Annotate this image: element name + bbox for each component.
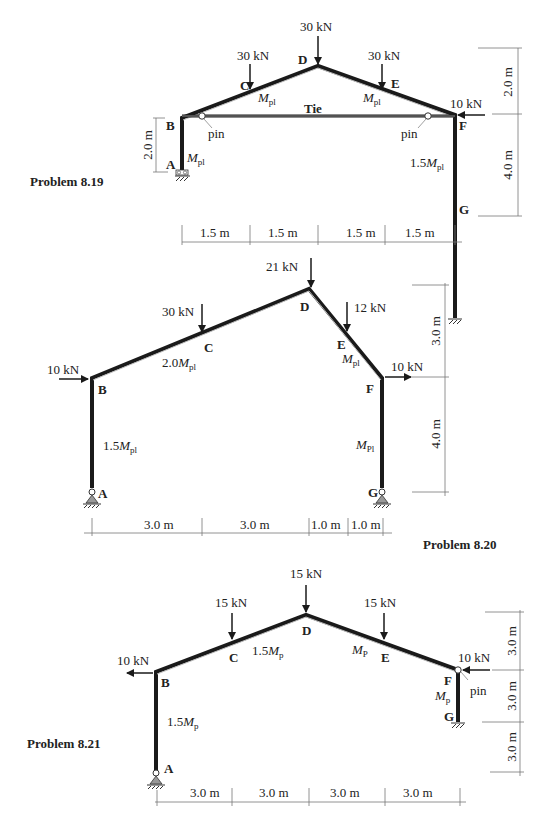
problem-8-19-title: Problem 8.19 — [30, 174, 104, 189]
svg-text:3.0 m: 3.0 m — [504, 626, 519, 656]
svg-text:3.0 m: 3.0 m — [259, 785, 289, 800]
load-label-f: 10 kN — [450, 96, 483, 111]
pin-label-right: pin — [401, 126, 418, 141]
svg-text:4.0 m: 4.0 m — [428, 419, 443, 449]
horizontal-dimensions-8-21: 3.0 m 3.0 m 3.0 m 3.0 m — [155, 785, 466, 806]
problem-8-20-diagram: Problem 8.20 21 kN 30 kN — [47, 258, 496, 552]
node-d: D — [302, 623, 311, 638]
svg-text:3.0 m: 3.0 m — [240, 517, 270, 532]
pin-support-a-icon — [147, 770, 165, 789]
svg-text:3.0 m: 3.0 m — [144, 517, 174, 532]
svg-text:3.0 m: 3.0 m — [403, 785, 433, 800]
svg-text:3.0 m: 3.0 m — [504, 732, 519, 762]
member-label-df: MP — [351, 642, 368, 659]
node-f: F — [366, 381, 374, 396]
member-label-bd: 1.5Mp — [252, 643, 284, 660]
pin-label-f: pin — [470, 683, 487, 698]
load-label-b: 10 kN — [117, 653, 150, 668]
member-label-fg: 1.5Mpl — [410, 155, 445, 172]
vertical-dimensions-8-21: 3.0 m 3.0 m 3.0 m — [482, 610, 524, 776]
svg-text:1.0 m: 1.0 m — [351, 517, 381, 532]
node-e: E — [391, 76, 400, 91]
member-label-df: Mpl — [362, 90, 381, 107]
member-label-df: Mpl — [341, 351, 360, 368]
svg-text:1.0 m: 1.0 m — [311, 517, 341, 532]
svg-text:3.0 m: 3.0 m — [504, 681, 519, 711]
vertical-dimensions-8-19: 2.0 m 4.0 m — [478, 48, 522, 216]
node-f: F — [444, 673, 452, 688]
load-label-b: 10 kN — [47, 362, 80, 377]
vertical-dimensions-8-20: 3.0 m 4.0 m — [412, 283, 449, 496]
load-label-f: 10 kN — [391, 359, 424, 374]
member-label-ab: 1.5Mpl — [103, 438, 138, 455]
roller-support-icon — [175, 170, 190, 181]
node-e: E — [337, 337, 346, 352]
svg-text:3.0 m: 3.0 m — [190, 785, 220, 800]
node-b: B — [161, 675, 170, 690]
node-a: A — [164, 761, 174, 776]
horizontal-dimensions-8-20: 3.0 m 3.0 m 1.0 m 1.0 m — [84, 517, 392, 536]
frame-8-21 — [156, 615, 468, 770]
load-label-e: 12 kN — [354, 300, 387, 315]
pin-label-left: pin — [208, 126, 225, 141]
svg-text:1.5 m: 1.5 m — [268, 225, 298, 240]
svg-text:2.0 m: 2.0 m — [500, 67, 515, 97]
node-b: B — [166, 118, 175, 133]
node-a: A — [166, 157, 176, 172]
member-label-bd: 2.0Mpl — [162, 355, 197, 372]
svg-text:4.0 m: 4.0 m — [500, 150, 515, 180]
load-label-c: 15 kN — [215, 595, 248, 610]
node-a: A — [98, 486, 108, 501]
svg-text:3.0 m: 3.0 m — [330, 785, 360, 800]
load-label-d: 15 kN — [290, 566, 323, 581]
pin-left-icon — [199, 113, 205, 119]
member-label-fg: Mp — [434, 688, 451, 705]
load-label-d: 30 kN — [300, 19, 333, 34]
node-g: G — [444, 709, 454, 724]
svg-text:3.0 m: 3.0 m — [428, 316, 443, 346]
problem-8-21-title: Problem 8.21 — [27, 736, 100, 751]
svg-text:1.5 m: 1.5 m — [346, 225, 376, 240]
load-label-d: 21 kN — [266, 259, 299, 274]
load-label-e: 30 kN — [368, 48, 401, 63]
node-d: D — [298, 52, 307, 67]
horizontal-dimensions-8-19: 1.5 m 1.5 m 1.5 m 1.5 m — [182, 225, 462, 245]
node-g: G — [459, 202, 469, 217]
member-label-ab: Mpl — [186, 150, 205, 167]
tie-label: Tie — [304, 101, 322, 116]
node-b: B — [98, 382, 107, 397]
vertical-dimension-left-8-19: 2.0 m — [140, 118, 168, 172]
node-c: C — [204, 340, 213, 355]
node-c: C — [240, 78, 249, 93]
member-label-fg: MPl — [355, 437, 375, 454]
problem-8-19-diagram: Problem 8.19 — [30, 19, 522, 324]
load-label-c: 30 kN — [237, 48, 270, 63]
node-d: D — [300, 299, 309, 314]
problem-8-20-title: Problem 8.20 — [423, 537, 496, 552]
node-c: C — [229, 650, 238, 665]
node-e: E — [381, 650, 390, 665]
svg-text:1.5 m: 1.5 m — [200, 225, 230, 240]
svg-text:1.5 m: 1.5 m — [405, 225, 435, 240]
load-label-c: 30 kN — [162, 304, 195, 319]
member-label-bd: Mpl — [257, 90, 276, 107]
node-g: G — [368, 485, 378, 500]
member-label-ab: 1.5Mp — [167, 714, 199, 731]
fixed-support-icon — [448, 319, 462, 324]
svg-text:2.0 m: 2.0 m — [140, 130, 155, 160]
node-f: F — [459, 118, 467, 133]
load-label-e: 15 kN — [364, 595, 397, 610]
frame-8-20 — [92, 289, 382, 488]
problem-8-21-diagram: Problem 8.21 15 kN 15 kN 15 kN — [27, 566, 524, 806]
pin-right-icon — [425, 113, 431, 119]
pin-f-icon — [455, 667, 461, 673]
load-label-f: 10 kN — [458, 650, 491, 665]
